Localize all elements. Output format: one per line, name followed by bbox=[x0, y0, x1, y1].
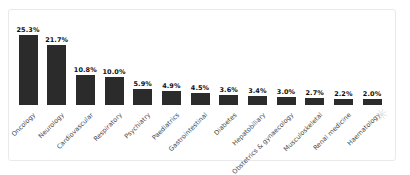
bar-value-label: 2.2% bbox=[334, 90, 352, 98]
bar bbox=[133, 89, 152, 105]
bar-value-label: 2.0% bbox=[363, 90, 381, 98]
bar-value-label: 21.7% bbox=[45, 36, 68, 44]
bar-category-label: Neurology bbox=[37, 111, 66, 140]
bar bbox=[305, 98, 324, 105]
bar bbox=[248, 96, 267, 105]
bar bbox=[277, 97, 296, 105]
bar-value-label: 3.6% bbox=[219, 86, 237, 94]
bar bbox=[47, 45, 66, 105]
bar-value-label: 3.0% bbox=[277, 88, 295, 96]
chart-page: 25.3%Oncology21.7%Neurology10.8%Cardiova… bbox=[0, 0, 410, 175]
bar bbox=[19, 35, 38, 105]
bar-value-label: 10.0% bbox=[102, 68, 125, 76]
bar bbox=[76, 75, 95, 105]
bar bbox=[334, 99, 353, 105]
bar-category-label: Psychiatry bbox=[123, 111, 152, 140]
bar-value-label: 3.4% bbox=[248, 87, 266, 95]
bar-category-label: Diabetes bbox=[212, 111, 238, 137]
bar bbox=[219, 95, 238, 105]
bar-value-label: 5.9% bbox=[133, 80, 151, 88]
bar-value-label: 4.5% bbox=[191, 84, 209, 92]
bar-value-label: 2.7% bbox=[305, 89, 323, 97]
bar bbox=[191, 93, 210, 105]
bar-category-label: Oncology bbox=[10, 111, 37, 138]
bar bbox=[105, 77, 124, 105]
bar bbox=[162, 91, 181, 105]
bar-value-label: 10.8% bbox=[74, 66, 97, 74]
bar bbox=[363, 99, 382, 105]
bar-category-label: Respiratory bbox=[92, 111, 124, 143]
chart-panel: 25.3%Oncology21.7%Neurology10.8%Cardiova… bbox=[8, 9, 396, 161]
bar-value-label: 25.3% bbox=[16, 26, 39, 34]
bar-chart: 25.3%Oncology21.7%Neurology10.8%Cardiova… bbox=[9, 10, 395, 160]
bar-value-label: 4.9% bbox=[162, 82, 180, 90]
